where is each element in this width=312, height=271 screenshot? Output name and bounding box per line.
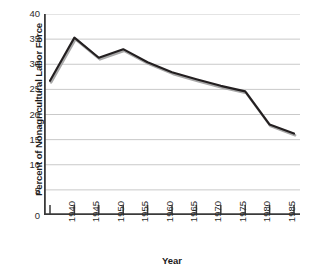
x-tick-label: 1985 xyxy=(270,200,281,234)
x-axis-tick-labels: 1940194519501955196019651970197519801985… xyxy=(44,217,300,257)
y-tick-label: 10 xyxy=(18,160,40,170)
y-tick-label: 25 xyxy=(18,84,40,94)
y-tick-label: 0 xyxy=(18,211,40,221)
y-tick-label: 35 xyxy=(18,34,40,44)
y-tick-label: 5 xyxy=(18,186,40,196)
x-tick-label: 1960 xyxy=(148,200,159,234)
x-tick-label: 1950 xyxy=(99,200,110,234)
x-tick-label: 1975 xyxy=(221,200,232,234)
gridlines xyxy=(44,14,300,190)
scan-artifact-bottom xyxy=(8,250,14,271)
x-tick-label: 1955 xyxy=(123,200,134,234)
series-line-shadow xyxy=(51,39,295,135)
x-tick-label: 1965 xyxy=(172,200,183,234)
data-series-layer xyxy=(50,38,295,136)
plot-svg xyxy=(44,14,300,215)
x-tick-label: 1940 xyxy=(50,200,61,234)
x-tick-label: 1945 xyxy=(74,200,85,234)
y-axis-tick-labels: 40 35 30 25 20 15 10 5 0 xyxy=(14,0,40,271)
line-chart: Percent of Nonagricultural Labor Force 4… xyxy=(0,0,312,271)
x-tick-label: 1980 xyxy=(245,200,256,234)
plot-area xyxy=(44,14,300,215)
x-axis-title: Year xyxy=(44,255,300,266)
y-tick-label: 30 xyxy=(18,59,40,69)
y-tick-label: 15 xyxy=(18,135,40,145)
series-line xyxy=(50,38,294,134)
x-tick-label: 1970 xyxy=(196,200,207,234)
x-tick-label: 1990 xyxy=(294,200,305,234)
y-tick-label: 40 xyxy=(18,9,40,19)
y-tick-label: 20 xyxy=(18,110,40,120)
